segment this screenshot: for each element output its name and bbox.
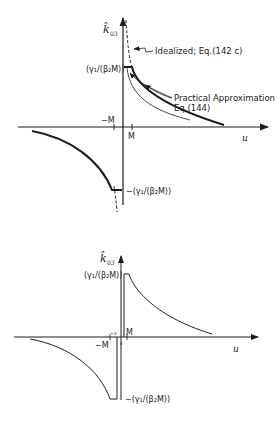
bottom-plot: k̂ 03 M −M ε −ε u (γ₁/(β₂M)) −(γ₁/(β₂M)) [14, 251, 258, 404]
bottom-y-axis-subscript: 03 [107, 259, 115, 266]
top-idealized-curve-positive [126, 20, 132, 68]
bottom-x-tick-M-label: M [126, 328, 133, 337]
top-x-tick-M-label: M [128, 132, 135, 141]
top-approx-curve-negative [32, 131, 122, 190]
approx-annotation-line1: Practical Approximation [174, 93, 275, 103]
bottom-x-tick-eps-label: ε [120, 340, 123, 346]
bottom-x-axis-label: u [233, 344, 239, 354]
top-y-axis-label: k̂ [103, 22, 110, 36]
top-y-level-neg-label: −(γ₁/(β₂M)) [126, 187, 171, 196]
top-x-tick-negM-label: −M [101, 116, 115, 125]
approx-annotation-line2: Eq.(144) [174, 103, 210, 113]
bottom-y-axis-label: k̂ [100, 251, 107, 265]
idealized-leader [134, 48, 153, 52]
top-y-axis-subscript: 03 [110, 30, 118, 37]
bottom-x-tick-negM-label: −M [95, 341, 109, 350]
bottom-x-tick-negeps-label: −ε [110, 330, 117, 336]
bottom-curve-positive [124, 274, 212, 337]
top-x-axis-label: u [242, 133, 248, 143]
top-plot: k̂ 03 M −M u (γ₁/(β₂M)) −(γ₁/(β₂M)) Idea… [18, 18, 275, 212]
diagram: k̂ 03 M −M u (γ₁/(β₂M)) −(γ₁/(β₂M)) Idea… [0, 0, 278, 421]
bottom-y-level-pos-label: (γ₁/(β₂M)) [84, 271, 122, 280]
bottom-y-level-neg-label: −(γ₁/(β₂M)) [125, 395, 170, 404]
idealized-annotation: Idealized; Eq.(142 c) [155, 46, 242, 56]
top-y-level-pos-label: (γ₁/(β₂M)) [86, 65, 124, 74]
